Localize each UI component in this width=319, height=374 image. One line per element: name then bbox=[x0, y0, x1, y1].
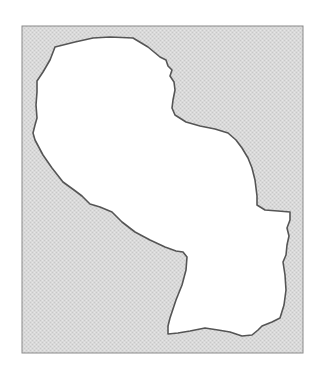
map-canvas bbox=[0, 0, 319, 374]
